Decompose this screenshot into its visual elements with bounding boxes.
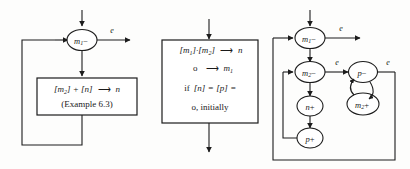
box-line2-left: (Example 6.3) bbox=[61, 99, 112, 109]
edge-label-e-mid-right: e bbox=[335, 58, 339, 67]
panel-middle: [m1]·[m2]⟶n o⟶m1 if[n]=[p]= o, initially bbox=[162, 19, 258, 152]
edge-pplus-feedback-to-m2 bbox=[283, 72, 297, 138]
figure-canvas: m1− e [m2] + [n]⟶n (Example 6.3) [m1]·[m… bbox=[0, 0, 410, 169]
node-n-plus-right-label: n+ bbox=[305, 102, 314, 112]
node-p-minus-right-label: p− bbox=[356, 68, 366, 78]
edge-label-e-left: e bbox=[110, 26, 114, 35]
edge-m2plus-to-pminus bbox=[351, 79, 354, 95]
node-p-plus-right-label: p+ bbox=[304, 134, 314, 144]
edge-label-e-top-right: e bbox=[339, 24, 343, 33]
diagram-svg: m1− e [m2] + [n]⟶n (Example 6.3) [m1]·[m… bbox=[0, 0, 410, 169]
panel-right: m1− e m2− e n+ p+ bbox=[273, 10, 395, 160]
box-line4-middle: o, initially bbox=[192, 102, 229, 112]
edge-label-e-right: e bbox=[386, 58, 390, 67]
panel-left: m1− e [m2] + [n]⟶n (Example 6.3) bbox=[22, 10, 137, 145]
